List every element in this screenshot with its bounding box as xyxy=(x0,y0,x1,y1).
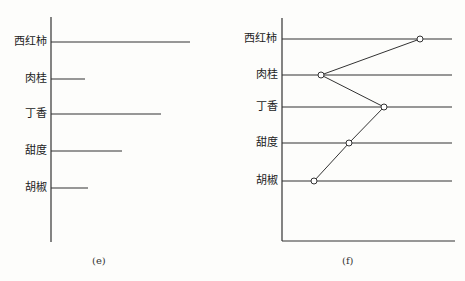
panel-f-label-cinnamon: 肉桂 xyxy=(256,69,278,81)
panel-e-chart xyxy=(51,17,190,242)
panel-f-chart xyxy=(282,18,455,241)
panel-e-label-tomato: 西红柿 xyxy=(14,36,47,48)
profile-line xyxy=(314,39,420,181)
panel-e-label-clove: 丁香 xyxy=(25,108,47,120)
panel-f-label-sweetness: 甜度 xyxy=(256,137,278,149)
panel-f-label-clove: 丁香 xyxy=(256,101,278,113)
point-pepper xyxy=(311,178,317,184)
panel-e-label-pepper: 胡椒 xyxy=(25,182,47,194)
panel-e-caption: (e) xyxy=(92,255,106,266)
point-tomato xyxy=(417,36,423,42)
point-sweetness xyxy=(346,140,352,146)
panel-f-caption: (f) xyxy=(342,255,354,266)
figure-canvas xyxy=(0,0,465,281)
panel-f-label-tomato: 西红柿 xyxy=(244,33,277,45)
point-clove xyxy=(381,104,387,110)
panel-e-label-cinnamon: 肉桂 xyxy=(25,73,47,85)
panel-e-label-sweetness: 甜度 xyxy=(25,145,47,157)
panel-f-label-pepper: 胡椒 xyxy=(256,175,278,187)
point-cinnamon xyxy=(318,72,324,78)
